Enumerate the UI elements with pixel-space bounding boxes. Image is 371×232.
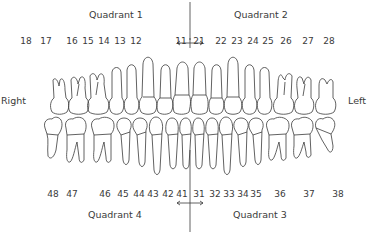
upper-teeth	[51, 57, 336, 114]
tooth-number: 23	[231, 37, 242, 46]
tooth-number: 46	[99, 190, 110, 199]
tooth-number: 47	[66, 190, 77, 199]
tooth-number: 37	[303, 190, 314, 199]
tooth-number: 35	[250, 190, 261, 199]
tooth-number: 45	[117, 190, 128, 199]
tooth-number: 33	[223, 190, 234, 199]
tooth-number: 18	[20, 37, 31, 46]
tooth-number: 44	[133, 190, 144, 199]
tooth-number: 41	[176, 190, 187, 199]
quadrant-3-label: Quadrant 3	[233, 210, 287, 220]
quadrant-4-label: Quadrant 4	[88, 210, 142, 220]
tooth-number: 25	[262, 37, 273, 46]
tooth-number: 34	[237, 190, 248, 199]
tooth-number: 22	[215, 37, 226, 46]
tooth-number: 26	[280, 37, 291, 46]
tooth-number: 28	[323, 37, 334, 46]
tooth-number: 36	[274, 190, 285, 199]
tooth-number: 24	[247, 37, 258, 46]
tooth-number: 11	[175, 37, 186, 46]
tooth-number: 14	[98, 37, 109, 46]
tooth-number: 15	[82, 37, 93, 46]
tooth-number: 12	[130, 37, 141, 46]
quadrant-2-label: Quadrant 2	[234, 10, 288, 20]
tooth-number: 32	[209, 190, 220, 199]
tooth-number: 17	[40, 37, 51, 46]
left-side-label: Left	[348, 96, 366, 106]
tooth-number: 31	[193, 190, 204, 199]
tooth-number: 43	[147, 190, 158, 199]
right-side-label: Right	[1, 96, 26, 106]
tooth-number: 48	[47, 190, 58, 199]
quadrant-1-label: Quadrant 1	[89, 10, 143, 20]
tooth-number: 27	[302, 37, 313, 46]
tooth-number: 38	[332, 190, 343, 199]
tooth-number: 16	[66, 37, 77, 46]
tooth-number: 21	[193, 37, 204, 46]
tooth-number: 13	[114, 37, 125, 46]
tooth-number: 42	[162, 190, 173, 199]
